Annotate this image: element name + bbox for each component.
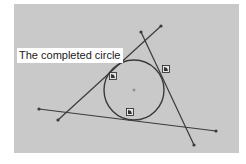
endpoint-handle[interactable] (56, 118, 59, 121)
endpoint-handle[interactable] (139, 30, 142, 33)
tangent-point-icon[interactable] (110, 73, 117, 80)
tangent-point-icon[interactable] (163, 66, 170, 73)
line-right[interactable] (141, 32, 194, 145)
endpoint-handle[interactable] (192, 143, 195, 146)
tangent-point-icon[interactable] (127, 109, 134, 116)
center-marker-icon (133, 89, 136, 92)
tangent-lines (37, 24, 217, 146)
endpoint-handle[interactable] (37, 107, 40, 110)
endpoint-handle[interactable] (214, 129, 217, 132)
endpoint-handle[interactable] (159, 24, 162, 27)
figure-caption: The completed circle (17, 48, 123, 63)
construction-drawing (0, 0, 246, 164)
